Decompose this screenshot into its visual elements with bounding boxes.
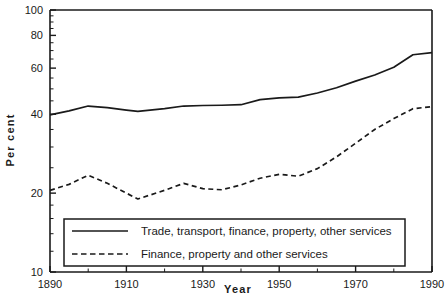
x-axis-title: Year bbox=[224, 283, 252, 295]
y-tick-label: 100 bbox=[25, 4, 43, 16]
line-chart: 1020406080100 189019101930195019701990 P… bbox=[0, 0, 445, 300]
y-tick-label: 60 bbox=[31, 62, 43, 74]
x-tick-label: 1990 bbox=[420, 278, 444, 290]
y-tick-label: 40 bbox=[31, 108, 43, 120]
series-line-finance bbox=[50, 107, 432, 199]
x-tick-label: 1910 bbox=[114, 278, 138, 290]
y-tick-label: 80 bbox=[31, 29, 43, 41]
chart-figure: 1020406080100 189019101930195019701990 P… bbox=[0, 0, 445, 300]
x-tick-label: 1950 bbox=[267, 278, 291, 290]
x-tick-label: 1930 bbox=[191, 278, 215, 290]
y-axis-ticks bbox=[50, 10, 56, 272]
x-tick-label: 1890 bbox=[38, 278, 62, 290]
chart-legend: Trade, transport, finance, property, oth… bbox=[64, 219, 405, 266]
y-axis-title: Per cent bbox=[4, 113, 16, 166]
y-tick-label: 10 bbox=[31, 266, 43, 278]
series-line-trade bbox=[50, 53, 432, 115]
x-axis-ticks bbox=[50, 266, 432, 272]
legend-label-trade: Trade, transport, finance, property, oth… bbox=[141, 225, 392, 237]
data-series-group bbox=[50, 53, 432, 199]
legend-label-finance: Finance, property and other services bbox=[141, 248, 328, 260]
y-tick-label: 20 bbox=[31, 187, 43, 199]
x-tick-label: 1970 bbox=[343, 278, 367, 290]
y-axis-tick-labels: 1020406080100 bbox=[25, 4, 43, 278]
